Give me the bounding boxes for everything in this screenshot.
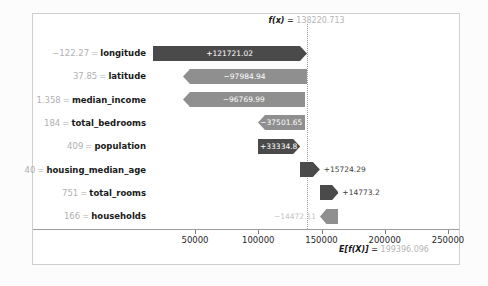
base-value-label: E[f(X)] [339,245,369,254]
positive-bar-shape [320,185,339,200]
x-axis-tick-label: 50000 [181,235,208,245]
shap-bar [320,185,339,200]
base-value-annotation: E[f(X)] = 199396.096 [339,245,429,254]
feature-equals-sign: = [83,141,94,151]
x-axis-tick-label: 100000 [242,235,274,245]
feature-value: 40 [25,165,36,175]
feature-equals-sign: = [89,48,100,58]
shap-value-label: −37501.65 [258,115,305,130]
shap-value-label: +14773.2 [342,185,379,200]
feature-equals-sign: = [97,71,108,81]
base-value-equals: = [371,245,378,254]
shap-value-label: −96769.99 [183,92,305,107]
feature-equals-sign: = [61,95,72,105]
shap-value-label: +15724.29 [324,162,366,177]
negative-bar-shape [320,209,338,224]
feature-row-label: 1.358=median_income [36,89,146,111]
x-axis-tick [258,230,259,234]
feature-value: 37.85 [73,71,97,81]
feature-equals-sign: = [78,188,89,198]
feature-name: housing_median_age [46,165,146,175]
base-value-value: 199396.096 [381,245,429,254]
x-axis-tick [322,230,323,234]
screenshot-root: f(x) = 138220.713 −122.27=longitude+1217… [0,0,488,286]
chart-figure: f(x) = 138220.713 −122.27=longitude+1217… [32,13,460,265]
x-axis-tick-label: 200000 [369,235,401,245]
feature-value: −122.27 [52,48,89,58]
waterfall-row: 37.85=latitude−97984.94 [33,65,461,87]
x-axis-tick-label: 250000 [432,235,464,245]
waterfall-row: −122.27=longitude+121721.02 [33,42,461,64]
feature-equals-sign: = [35,165,46,175]
prediction-label: f(x) [269,16,285,25]
shap-bar [320,209,338,224]
waterfall-row: 166=households−14472.11 [33,205,461,227]
x-axis-tick [195,230,196,234]
feature-row-label: 184=total_bedrooms [44,112,146,134]
waterfall-row: 184=total_bedrooms−37501.65 [33,112,461,134]
prediction-equals: = [287,16,294,25]
feature-name: latitude [108,71,146,81]
feature-row-label: 37.85=latitude [73,65,146,87]
feature-equals-sign: = [60,118,71,128]
x-axis-tick-label: 150000 [305,235,337,245]
feature-name: population [94,141,146,151]
feature-name: median_income [72,95,146,105]
waterfall-row: 1.358=median_income−96769.99 [33,89,461,111]
feature-value: 184 [44,118,60,128]
feature-name: total_rooms [89,188,146,198]
x-axis: 50000100000150000200000250000 [33,229,459,230]
shap-value-label: +121721.02 [153,46,307,61]
shap-bar [300,162,320,177]
waterfall-row: 40=housing_median_age+15724.29 [33,159,461,181]
feature-row-label: 40=housing_median_age [25,159,147,181]
feature-value: 1.358 [36,95,60,105]
waterfall-row: 409=population+33334.8 [33,135,461,157]
shap-value-label: +33334.8 [258,139,300,154]
feature-row-label: 751=total_rooms [62,182,146,204]
waterfall-row: 751=total_rooms+14773.2 [33,182,461,204]
feature-value: 751 [62,188,78,198]
feature-name: total_bedrooms [71,118,146,128]
shap-value-label: −97984.94 [183,69,307,84]
plot-area: f(x) = 138220.713 −122.27=longitude+1217… [33,14,459,264]
positive-bar-shape [300,162,320,177]
feature-value: 409 [67,141,83,151]
x-axis-tick [448,230,449,234]
feature-name: longitude [100,48,146,58]
prediction-value: 138220.713 [296,16,344,25]
prediction-annotation: f(x) = 138220.713 [269,16,345,25]
x-axis-tick [385,230,386,234]
shap-value-label: −14472.11 [33,209,316,224]
feature-row-label: 409=population [67,135,146,157]
feature-row-label: −122.27=longitude [52,42,146,64]
